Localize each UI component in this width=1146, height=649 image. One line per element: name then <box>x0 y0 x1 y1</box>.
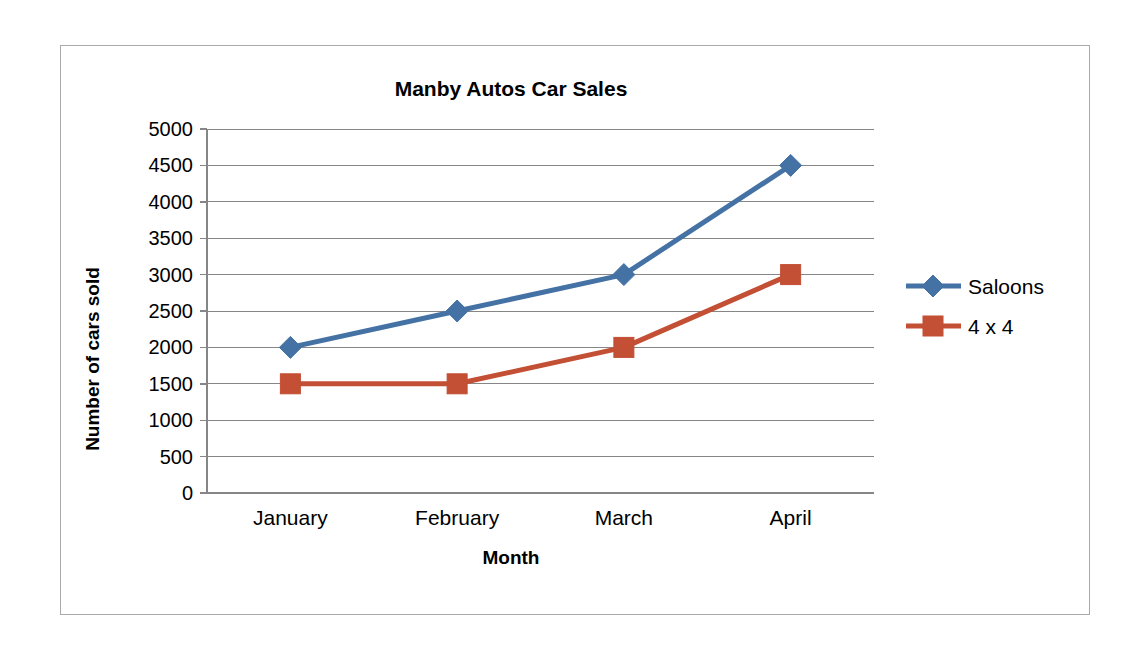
legend-item-saloons[interactable]: Saloons <box>906 275 1044 298</box>
legend-item-4-x-4[interactable]: 4 x 4 <box>906 315 1014 338</box>
x-category-label: March <box>595 506 653 529</box>
x-category-label: February <box>415 506 500 529</box>
line-chart-canvas: Manby Autos Car Sales Number of cars sol… <box>61 46 1089 614</box>
legend-label: Saloons <box>968 275 1044 298</box>
x-category-label: April <box>770 506 812 529</box>
data-series[interactable] <box>279 154 801 393</box>
series-4-x-4[interactable] <box>280 265 800 394</box>
data-point-marker[interactable] <box>280 374 300 394</box>
x-axis-category-labels: JanuaryFebruaryMarchApril <box>253 506 812 529</box>
y-tick-label: 1500 <box>149 373 194 395</box>
data-point-marker[interactable] <box>279 336 301 358</box>
y-tick-label: 0 <box>182 482 193 504</box>
y-axis-title: Number of cars sold <box>82 267 103 451</box>
y-axis-tick-marks <box>200 129 207 493</box>
series-line[interactable] <box>290 165 790 347</box>
y-tick-label: 500 <box>160 446 193 468</box>
series-saloons[interactable] <box>279 154 801 358</box>
chart-container: Manby Autos Car Sales Number of cars sol… <box>60 45 1090 615</box>
legend-marker <box>923 316 943 336</box>
data-point-marker[interactable] <box>781 265 801 285</box>
x-axis-title: Month <box>483 547 540 568</box>
y-tick-label: 5000 <box>149 118 194 140</box>
data-point-marker[interactable] <box>614 337 634 357</box>
y-axis-tick-labels: 0500100015002000250030003500400045005000 <box>149 118 194 504</box>
legend-marker <box>922 275 944 297</box>
x-category-label: January <box>253 506 328 529</box>
y-tick-label: 1000 <box>149 409 194 431</box>
data-point-marker[interactable] <box>446 300 468 322</box>
y-tick-label: 4500 <box>149 154 194 176</box>
y-tick-label: 2000 <box>149 336 194 358</box>
y-tick-label: 4000 <box>149 191 194 213</box>
chart-page: Manby Autos Car Sales Number of cars sol… <box>0 0 1146 649</box>
chart-legend[interactable]: Saloons4 x 4 <box>906 275 1044 338</box>
data-point-marker[interactable] <box>447 374 467 394</box>
chart-title: Manby Autos Car Sales <box>395 77 628 100</box>
y-tick-label: 3500 <box>149 227 194 249</box>
y-tick-label: 2500 <box>149 300 194 322</box>
legend-label: 4 x 4 <box>968 315 1014 338</box>
y-tick-label: 3000 <box>149 264 194 286</box>
gridlines <box>207 129 874 493</box>
